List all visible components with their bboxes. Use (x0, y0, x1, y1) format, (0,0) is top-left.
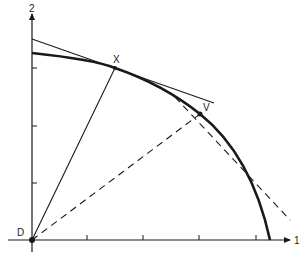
x-axis-label: 1 (294, 235, 300, 246)
dashed-ray-d-to-v (32, 114, 200, 240)
x-point (113, 66, 117, 70)
v-point-label: V (203, 102, 210, 113)
x-axis-ticks (87, 235, 256, 240)
diagram-canvas: 2 1 D X V (0, 0, 304, 266)
v-point (198, 112, 203, 117)
dashed-tangent-at-v (175, 97, 290, 220)
ray-d-to-x (32, 68, 115, 240)
y-axis-ticks (32, 68, 37, 183)
tangent-line-at-x (32, 39, 214, 103)
y-axis-label: 2 (29, 3, 35, 14)
x-point-label: X (113, 54, 120, 65)
origin-label: D (17, 227, 24, 238)
origin-point (29, 237, 35, 243)
